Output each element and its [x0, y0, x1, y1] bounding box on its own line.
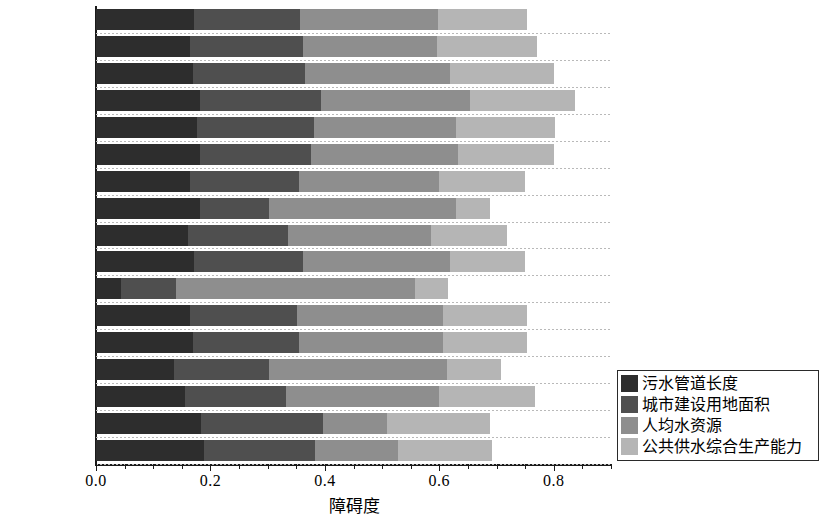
bar-segment — [437, 36, 537, 57]
bar-segment — [96, 36, 190, 57]
x-tick-minor — [354, 464, 355, 469]
x-tick-minor — [497, 464, 498, 469]
stacked-bar — [96, 278, 448, 299]
bar-segment — [450, 251, 526, 272]
bar-segment — [456, 198, 490, 219]
stacked-bar — [96, 90, 575, 111]
x-tick-minor — [382, 464, 383, 469]
stacked-bar — [96, 63, 554, 84]
x-tick-minor — [411, 464, 412, 469]
bar-segment — [311, 144, 459, 165]
bar-segment — [96, 171, 190, 192]
x-tick-major — [210, 464, 211, 471]
bar-segment — [314, 117, 456, 138]
bar-segment — [96, 413, 201, 434]
bar-row: 晋中市 — [96, 60, 611, 87]
bar-segment — [315, 440, 397, 461]
bar-segment — [96, 332, 193, 353]
x-tick-major — [325, 464, 326, 471]
bar-segment — [200, 90, 322, 111]
bar-segment — [190, 305, 296, 326]
x-tick-major — [439, 464, 440, 471]
bar-segment — [438, 9, 527, 30]
bar-segment — [321, 90, 470, 111]
bar-segment — [96, 440, 204, 461]
bar-segment — [458, 144, 554, 165]
bar-segment — [443, 305, 528, 326]
x-tick-label: 0.8 — [543, 472, 565, 490]
bar-row: 郑州市 — [96, 275, 611, 302]
stacked-bar — [96, 305, 527, 326]
x-tick-minor — [296, 464, 297, 469]
legend-item[interactable]: 污水管道长度 — [621, 373, 815, 394]
bar-row: 泰安市 — [96, 383, 611, 410]
bar-segment — [96, 198, 200, 219]
legend-item[interactable]: 公共供水综合生产能力 — [621, 436, 815, 457]
bar-segment — [398, 440, 492, 461]
bar-segment — [96, 63, 193, 84]
bar-segment — [185, 386, 286, 407]
legend-label: 污水管道长度 — [642, 376, 738, 392]
bar-segment — [188, 225, 288, 246]
stacked-bar — [96, 117, 555, 138]
bar-segment — [269, 198, 456, 219]
bar-segment — [194, 9, 300, 30]
bar-row: 商丘市 — [96, 222, 611, 249]
legend-item[interactable]: 人均水资源 — [621, 415, 815, 436]
x-tick-minor — [182, 464, 183, 469]
bar-row: 阳泉市 — [96, 168, 611, 195]
bar-segment — [443, 332, 528, 353]
x-tick-minor — [468, 464, 469, 469]
legend-swatch-icon — [621, 375, 638, 392]
x-tick-minor — [611, 464, 612, 469]
stacked-bar — [96, 251, 525, 272]
x-axis-title: 障碍度 — [329, 492, 380, 514]
stacked-bar — [96, 144, 554, 165]
legend-label: 城市建设用地面积 — [642, 397, 770, 413]
bar-segment — [269, 359, 447, 380]
x-tick-minor — [239, 464, 240, 469]
bar-segment — [96, 144, 200, 165]
bar-row: 太原市 — [96, 195, 611, 222]
bar-segment — [96, 359, 174, 380]
bar-segment — [323, 413, 388, 434]
bar-segment — [194, 251, 303, 272]
bar-segment — [193, 63, 305, 84]
bar-row: 长治市 — [96, 141, 611, 168]
bar-segment — [96, 278, 121, 299]
bar-segment — [204, 440, 316, 461]
bar-segment — [303, 251, 450, 272]
chart-legend: 污水管道长度城市建设用地面积人均水资源公共供水综合生产能力 — [617, 370, 819, 461]
legend-swatch-icon — [621, 438, 638, 455]
legend-label: 公共供水综合生产能力 — [642, 439, 802, 455]
bar-segment — [96, 251, 194, 272]
legend-item[interactable]: 城市建设用地面积 — [621, 394, 815, 415]
stacked-bar — [96, 198, 490, 219]
bar-segment — [447, 359, 500, 380]
bar-segment — [200, 144, 311, 165]
stacked-bar — [96, 171, 525, 192]
bar-row: 平顶山市 — [96, 248, 611, 275]
bar-segment — [431, 225, 507, 246]
stacked-bar — [96, 225, 507, 246]
bar-segment — [96, 90, 200, 111]
bar-segment — [193, 332, 299, 353]
bar-segment — [299, 332, 443, 353]
bar-segment — [387, 413, 489, 434]
bar-segment — [415, 278, 448, 299]
x-tick-label: 0.2 — [200, 472, 222, 490]
bar-row: 临汾市 — [96, 6, 611, 33]
stacked-bar-chart: 0.00.20.40.60.8 障碍度 临汾市忻州市晋中市朔州市晋城市长治市阳泉… — [0, 0, 823, 514]
bar-segment — [450, 63, 554, 84]
bar-row: 淮南市 — [96, 329, 611, 356]
x-tick-minor — [268, 464, 269, 469]
bar-segment — [305, 63, 450, 84]
bar-segment — [176, 278, 415, 299]
bar-row: 徐州市 — [96, 356, 611, 383]
bar-segment — [121, 278, 177, 299]
x-tick-minor — [525, 464, 526, 469]
bar-row: 淮北市 — [96, 302, 611, 329]
x-tick-major — [554, 464, 555, 471]
legend-swatch-icon — [621, 396, 638, 413]
bar-row: 忻州市 — [96, 33, 611, 60]
